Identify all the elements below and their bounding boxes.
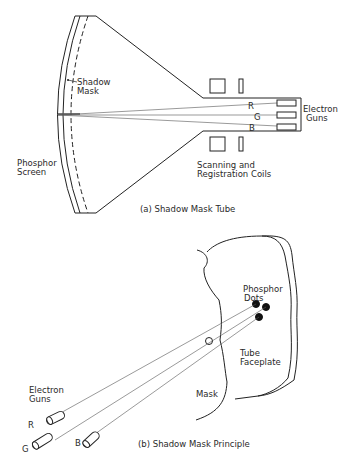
figure-a-shadow-mask-tube: R G B Electron Guns Scanning and Registr… <box>17 16 338 214</box>
label-mask: Mask <box>196 389 218 399</box>
label-gun-r: R <box>248 101 254 111</box>
shadow-mask-diagram: R G B Electron Guns Scanning and Registr… <box>0 0 355 464</box>
gun-b <box>277 124 296 130</box>
label-electron-guns-2: Guns <box>306 113 328 123</box>
gun-b-b <box>81 430 100 449</box>
label-gun-g: G <box>254 112 261 122</box>
label-tube-faceplate-2: Faceplate <box>240 357 281 367</box>
tube-faceplate-inner-edge <box>258 236 291 396</box>
gun-r-b <box>45 410 66 426</box>
caption-a: (a) Shadow Mask Tube <box>140 204 235 214</box>
gun-g <box>277 112 296 118</box>
label-electron-guns-b-2: Guns <box>29 394 51 404</box>
label-phosphor-screen-2: Screen <box>17 167 46 177</box>
electron-beams-b <box>55 304 266 440</box>
label-phosphor-dots-2: Dots <box>244 293 264 303</box>
tube-funnel <box>96 16 301 213</box>
electron-beams <box>58 103 277 126</box>
electron-guns-b <box>31 410 101 450</box>
mask-aperture <box>206 338 213 345</box>
caption-b: (b) Shadow Mask Principle <box>138 439 250 449</box>
electron-gun-group <box>277 100 296 130</box>
figure-b-shadow-mask-principle: Phosphor Dots Tube Faceplate Mask Electr… <box>22 236 297 454</box>
label-gun-r-b: R <box>28 420 34 430</box>
tube-faceplate-outline <box>207 236 297 399</box>
gun-r <box>277 100 296 106</box>
gun-g-b <box>31 432 54 450</box>
label-gun-b: B <box>249 123 255 133</box>
label-gun-g-b: G <box>22 444 29 454</box>
shadow-mask-leader-dot <box>67 79 69 81</box>
label-coils-2: Registration Coils <box>197 169 272 179</box>
label-gun-b-b: B <box>75 438 81 448</box>
label-shadow-mask-2: Mask <box>77 86 99 96</box>
